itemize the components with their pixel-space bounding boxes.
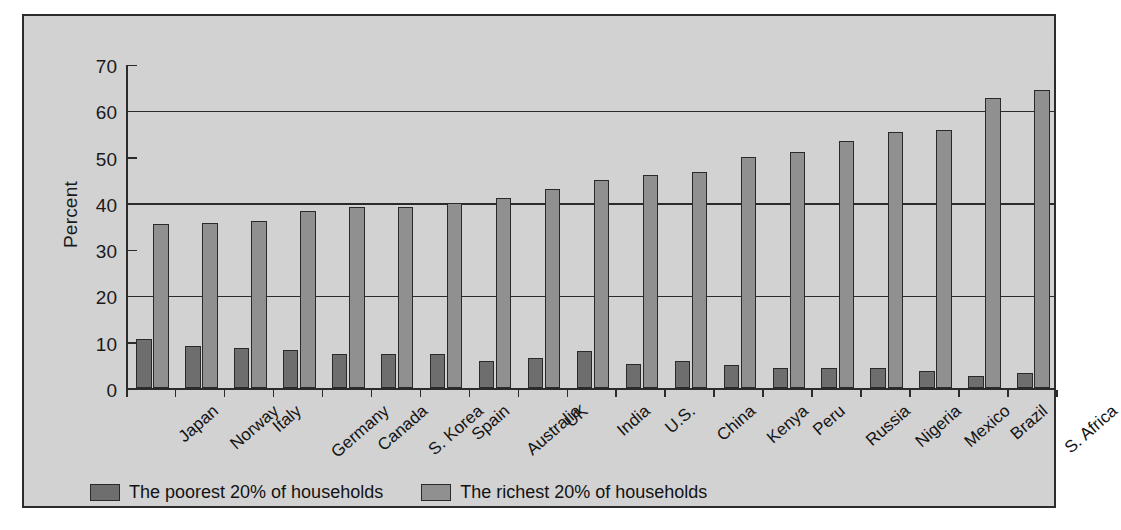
bar-poorest-norway: [185, 346, 200, 388]
bar-poorest-kenya: [724, 365, 739, 388]
x-tickmark-10: [615, 390, 617, 397]
chart-panel: Percent 010203040506070 JapanNorwayItaly…: [22, 14, 1056, 508]
x-tickmark-17: [958, 390, 960, 397]
chart-legend: The poorest 20% of householdsThe richest…: [90, 482, 707, 503]
legend-item-poorest[interactable]: The poorest 20% of households: [90, 482, 383, 503]
x-tickmark-16: [909, 390, 911, 397]
legend-item-richest[interactable]: The richest 20% of households: [421, 482, 707, 503]
x-axis-label-china: China: [714, 402, 759, 444]
x-axis-label-india: India: [614, 402, 653, 439]
bar-richest-australia: [496, 198, 511, 388]
x-tickmark-6: [420, 390, 422, 397]
x-axis-label-brazil: Brazil: [1007, 402, 1050, 443]
x-tickmark-18: [1007, 390, 1009, 397]
x-tickmark-4: [322, 390, 324, 397]
y-tick-label-40: 40: [96, 195, 117, 214]
bar-poorest-uk: [528, 358, 543, 388]
x-axis-label-peru: Peru: [810, 402, 848, 438]
y-tick-label-60: 60: [96, 103, 117, 122]
x-axis-line: [126, 388, 1056, 390]
bar-poorest-nigeria: [870, 368, 885, 388]
x-tickmark-19: [1056, 390, 1058, 397]
y-tick-label-70: 70: [96, 57, 117, 76]
bar-poorest-s-korea: [381, 354, 396, 389]
bar-richest-germany: [300, 211, 315, 388]
bar-poorest-s-africa: [1017, 373, 1032, 388]
bar-richest-russia: [839, 141, 854, 388]
bar-poorest-u-s: [626, 364, 641, 388]
x-tickmark-9: [567, 390, 569, 397]
bar-richest-india: [594, 180, 609, 388]
bar-richest-japan: [153, 224, 168, 388]
bar-poorest-canada: [332, 354, 347, 389]
x-axis-label-kenya: Kenya: [764, 402, 812, 446]
x-axis-label-nigeria: Nigeria: [912, 402, 964, 450]
bar-richest-u-s: [643, 175, 658, 388]
x-axis-label-japan: Japan: [176, 402, 222, 445]
x-tickmark-8: [518, 390, 520, 397]
bar-richest-peru: [790, 152, 805, 388]
bar-richest-italy: [251, 221, 266, 388]
bar-poorest-germany: [283, 350, 298, 388]
bar-poorest-peru: [773, 368, 788, 388]
x-tickmark-3: [273, 390, 275, 397]
legend-swatch-icon-rich: [421, 484, 451, 501]
bar-richest-kenya: [741, 157, 756, 388]
bar-poorest-italy: [234, 348, 249, 388]
y-tick-label-10: 10: [96, 334, 117, 353]
bar-richest-mexico: [936, 130, 951, 388]
y-tick-label-50: 50: [96, 149, 117, 168]
x-tickmark-12: [713, 390, 715, 397]
x-axis-label-u-s: U.S.: [662, 402, 698, 437]
x-tickmark-2: [224, 390, 226, 397]
y-tick-label-30: 30: [96, 242, 117, 261]
legend-label: The poorest 20% of households: [129, 482, 383, 503]
x-tickmark-0: [126, 390, 128, 397]
bar-richest-brazil: [985, 98, 1000, 388]
bar-richest-nigeria: [888, 132, 903, 388]
x-axis-label-s-africa: S. Africa: [1061, 402, 1120, 456]
bar-richest-china: [692, 172, 707, 388]
bar-richest-s-africa: [1034, 90, 1049, 388]
x-tickmark-7: [469, 390, 471, 397]
plot-right-border: [1054, 66, 1056, 390]
bar-poorest-mexico: [919, 371, 934, 388]
y-axis-title: Percent: [60, 181, 82, 248]
bar-poorest-china: [675, 361, 690, 388]
legend-label: The richest 20% of households: [460, 482, 707, 503]
bar-richest-norway: [202, 223, 217, 388]
bar-poorest-australia: [479, 361, 494, 388]
x-tickmark-15: [860, 390, 862, 397]
bar-richest-uk: [545, 189, 560, 388]
plot-area: 010203040506070 JapanNorwayItalyGermanyC…: [126, 66, 1056, 390]
x-axis-label-russia: Russia: [862, 402, 912, 449]
bar-poorest-brazil: [968, 376, 983, 388]
x-tickmark-14: [811, 390, 813, 397]
bar-richest-canada: [349, 207, 364, 388]
bar-richest-s-korea: [398, 207, 413, 388]
bar-poorest-russia: [821, 368, 836, 388]
bar-poorest-india: [577, 351, 592, 388]
x-tickmark-5: [371, 390, 373, 397]
x-tickmark-1: [175, 390, 177, 397]
x-tickmark-11: [664, 390, 666, 397]
bar-poorest-japan: [136, 339, 151, 388]
y-tick-label-0: 0: [106, 381, 117, 400]
legend-swatch-icon-poor: [90, 484, 120, 501]
x-tickmark-13: [762, 390, 764, 397]
y-tick-label-20: 20: [96, 288, 117, 307]
bar-poorest-spain: [430, 354, 445, 389]
bar-richest-spain: [447, 203, 462, 388]
x-axis-label-mexico: Mexico: [961, 402, 1013, 450]
bar-series-container: [128, 66, 1054, 388]
